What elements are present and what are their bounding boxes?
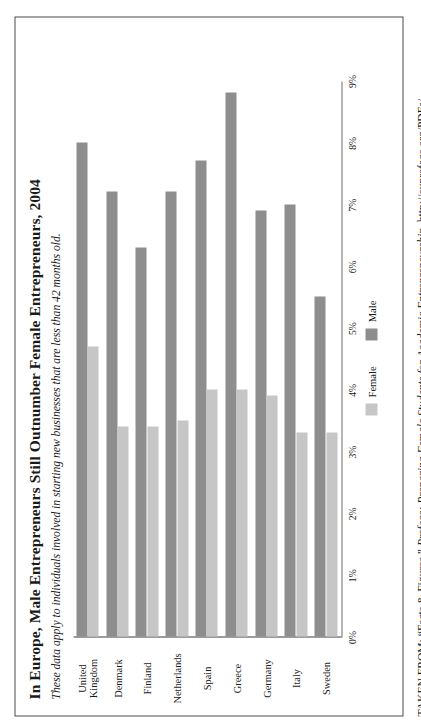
bar-male xyxy=(225,92,236,636)
bar-female xyxy=(117,426,128,636)
bar-male xyxy=(106,191,117,636)
legend-item: Female xyxy=(365,366,377,415)
value-tick-label: 6% xyxy=(346,260,357,273)
figure-frame: In Europe, Male Entrepreneurs Still Outn… xyxy=(14,16,403,716)
bar-female xyxy=(87,346,98,636)
legend-item: Male xyxy=(365,300,377,340)
chart-title: In Europe, Male Entrepreneurs Still Outn… xyxy=(25,179,43,699)
rotated-figure-stage: In Europe, Male Entrepreneurs Still Outn… xyxy=(0,0,421,728)
bar-group xyxy=(133,81,163,637)
bar-female xyxy=(147,426,158,636)
value-axis: 0%1%2%3%4%5%6%7%8%9% xyxy=(341,81,367,637)
value-tick-label: 2% xyxy=(346,507,357,520)
legend-label: Male xyxy=(366,300,377,322)
bar-male xyxy=(195,160,206,636)
legend-swatch-male xyxy=(365,328,377,340)
category-label: Finland xyxy=(141,641,153,715)
value-tick-label: 4% xyxy=(346,383,357,396)
bar-male xyxy=(284,204,295,636)
value-tick-label: 0% xyxy=(346,631,357,644)
legend-swatch-female xyxy=(365,403,377,415)
bar-male xyxy=(165,191,176,636)
bar-female xyxy=(177,420,188,636)
source-line-1: TAKEN FROM: “Facts & Figures,” Preface: … xyxy=(414,16,421,716)
bar-group xyxy=(252,81,282,637)
category-label: United Kingdom xyxy=(76,641,99,715)
category-label: Germany xyxy=(261,641,273,715)
bar-male xyxy=(255,210,266,636)
bar-female xyxy=(236,389,247,636)
chart-subtitle: These data apply to individuals involved… xyxy=(49,233,62,699)
bar-female xyxy=(296,432,307,636)
value-tick-label: 9% xyxy=(346,75,357,88)
bar-group xyxy=(192,81,222,637)
category-label: Netherlands xyxy=(171,641,183,715)
value-tick-label: 7% xyxy=(346,198,357,211)
value-tick-label: 1% xyxy=(346,569,357,582)
value-tick-label: 5% xyxy=(346,322,357,335)
source-suffix: http://eupreface.org/PDFs/ xyxy=(415,99,421,225)
bar-male xyxy=(135,247,146,636)
bar-female xyxy=(326,432,337,636)
legend-label: Female xyxy=(366,366,377,397)
chart-legend: FemaleMale xyxy=(365,300,377,415)
bar-group xyxy=(103,81,133,637)
value-tick-label: 8% xyxy=(346,136,357,149)
source-citation: TAKEN FROM: “Facts & Figures,” Preface: … xyxy=(414,16,421,716)
category-label: Sweden xyxy=(320,641,332,715)
category-label: Denmark xyxy=(112,641,124,715)
bar-female xyxy=(206,389,217,636)
category-label: Greece xyxy=(231,641,243,715)
bar-male xyxy=(76,142,87,636)
bar-group xyxy=(222,81,252,637)
category-label: Spain xyxy=(201,641,213,715)
value-axis-rule xyxy=(341,81,342,637)
figure-page: In Europe, Male Entrepreneurs Still Outn… xyxy=(0,0,421,728)
chart-plot-area: United KingdomDenmarkFinlandNetherlandsS… xyxy=(73,81,341,637)
bar-group xyxy=(162,81,192,637)
bar-male xyxy=(314,296,325,636)
bar-group xyxy=(311,81,341,637)
category-label: Italy xyxy=(290,641,302,715)
source-title-italic: Preface: Preparing Female Students for A… xyxy=(415,225,421,546)
bar-group xyxy=(281,81,311,637)
value-tick-label: 3% xyxy=(346,445,357,458)
bar-female xyxy=(266,395,277,636)
bar-group xyxy=(73,81,103,637)
source-prefix: TAKEN FROM: “Facts & Figures,” xyxy=(415,546,421,716)
